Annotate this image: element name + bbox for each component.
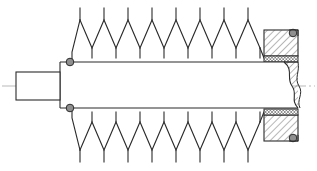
- main-cylinder-rod: [60, 62, 298, 108]
- lower-bellows: [72, 108, 264, 162]
- left-rod-end-stub: [16, 72, 60, 100]
- oring-front-upper: [66, 58, 74, 66]
- upper-bellows: [72, 8, 264, 62]
- oring-front-lower: [66, 104, 74, 112]
- engineering-drawing-svg: [0, 0, 317, 171]
- technical-drawing-canvas: Hydraulic cylinder rod with accordion be…: [0, 0, 317, 171]
